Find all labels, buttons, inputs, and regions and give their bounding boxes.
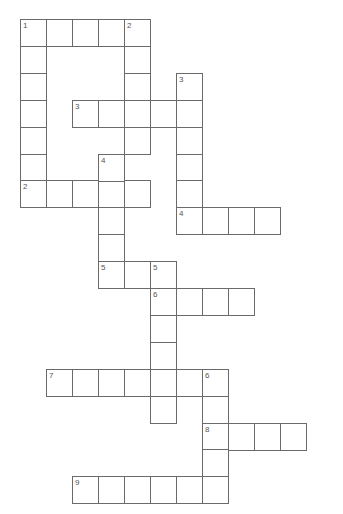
crossword-cell[interactable] [176, 100, 203, 128]
crossword-cell[interactable] [202, 476, 229, 504]
crossword-cell[interactable] [98, 369, 125, 397]
crossword-cell[interactable] [124, 476, 151, 504]
crossword-cell[interactable] [280, 423, 307, 451]
crossword-cell[interactable] [20, 73, 47, 101]
crossword-cell[interactable] [124, 100, 151, 128]
clue-number: 5 [101, 263, 105, 272]
clue-number: 2 [127, 21, 131, 30]
crossword-cell[interactable] [176, 180, 203, 208]
crossword-cell[interactable] [202, 396, 229, 424]
crossword-cell[interactable] [124, 261, 151, 289]
clue-number: 3 [75, 102, 79, 111]
crossword-cell[interactable] [202, 449, 229, 477]
crossword-cell[interactable]: 5 [98, 261, 125, 289]
crossword-cell[interactable]: 4 [98, 154, 125, 182]
clue-number: 5 [153, 263, 157, 272]
clue-number: 6 [153, 290, 157, 299]
crossword-cell[interactable]: 3 [176, 73, 203, 101]
clue-number: 4 [179, 209, 183, 218]
crossword-cell[interactable] [176, 369, 203, 397]
clue-number: 9 [75, 478, 79, 487]
crossword-cell[interactable] [254, 423, 281, 451]
clue-number: 8 [205, 425, 209, 434]
crossword-cell[interactable] [150, 369, 177, 397]
crossword-cell[interactable] [124, 369, 151, 397]
crossword-cell[interactable] [150, 315, 177, 343]
crossword-cell[interactable]: 7 [46, 369, 73, 397]
crossword-cell[interactable]: 4 [176, 207, 203, 235]
crossword-cell[interactable]: 6 [202, 369, 229, 397]
crossword-cell[interactable] [176, 476, 203, 504]
crossword-cell[interactable]: 2 [124, 19, 151, 47]
crossword-cell[interactable] [46, 19, 73, 47]
crossword-cell[interactable] [72, 19, 99, 47]
clue-number: 2 [23, 182, 27, 191]
clue-number: 4 [101, 156, 105, 165]
crossword-cell[interactable]: 9 [72, 476, 99, 504]
crossword-cell[interactable] [150, 100, 177, 128]
crossword-cell[interactable] [150, 476, 177, 504]
crossword-cell[interactable] [72, 369, 99, 397]
clue-number: 7 [49, 371, 53, 380]
crossword-cell[interactable]: 3 [72, 100, 99, 128]
crossword-cell[interactable] [176, 288, 203, 316]
crossword-cell[interactable] [98, 207, 125, 235]
crossword-cell[interactable] [254, 207, 281, 235]
crossword-cell[interactable] [176, 154, 203, 182]
crossword-cell[interactable] [20, 154, 47, 182]
crossword-grid: 12233445567689 [0, 0, 343, 514]
crossword-cell[interactable] [72, 180, 99, 208]
crossword-cell[interactable] [98, 19, 125, 47]
crossword-cell[interactable] [228, 207, 255, 235]
crossword-cell[interactable] [98, 100, 125, 128]
crossword-cell[interactable] [150, 342, 177, 370]
clue-number: 3 [179, 75, 183, 84]
crossword-cell[interactable] [228, 288, 255, 316]
crossword-cell[interactable] [20, 46, 47, 74]
crossword-cell[interactable] [98, 234, 125, 262]
clue-number: 6 [205, 371, 209, 380]
clue-number: 1 [23, 21, 27, 30]
crossword-cell[interactable]: 8 [202, 423, 229, 451]
crossword-cell[interactable] [228, 423, 255, 451]
crossword-cell[interactable]: 6 [150, 288, 177, 316]
crossword-cell[interactable] [46, 180, 73, 208]
crossword-cell[interactable] [20, 100, 47, 128]
crossword-cell[interactable] [124, 46, 151, 74]
crossword-cell[interactable] [150, 396, 177, 424]
crossword-cell[interactable] [124, 127, 151, 155]
crossword-cell[interactable] [202, 207, 229, 235]
crossword-cell[interactable] [20, 127, 47, 155]
crossword-cell[interactable] [124, 180, 151, 208]
crossword-cell[interactable] [124, 73, 151, 101]
crossword-cell[interactable] [98, 476, 125, 504]
crossword-cell[interactable]: 2 [20, 180, 47, 208]
crossword-cell[interactable] [176, 127, 203, 155]
crossword-cell[interactable] [202, 288, 229, 316]
crossword-cell[interactable]: 1 [20, 19, 47, 47]
crossword-cell[interactable]: 5 [150, 261, 177, 289]
crossword-cell[interactable] [98, 180, 125, 208]
